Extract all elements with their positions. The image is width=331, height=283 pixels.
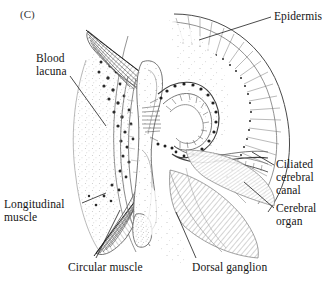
label-cerebral-organ: Cerebral organ xyxy=(276,202,316,228)
label-dorsal-ganglion: Dorsal ganglion xyxy=(192,261,267,274)
label-circular-muscle: Circular muscle xyxy=(68,261,143,274)
panel-label: (C) xyxy=(20,8,35,20)
anatomical-drawing xyxy=(0,0,331,283)
label-ciliated-cerebral-canal: Ciliated cerebral canal xyxy=(276,158,314,197)
label-epidermis: Epidermis xyxy=(274,10,322,23)
label-longitudinal-muscle: Longitudinal muscle xyxy=(4,198,65,224)
label-blood-lacuna: Blood lacuna xyxy=(36,52,67,78)
